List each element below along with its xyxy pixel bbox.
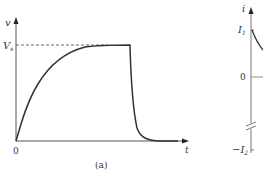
a-y-axis-arrow-icon [14,17,19,24]
a-y-axis-label: v [5,17,11,28]
figure-a: v Vs 0 t (a) [3,17,189,170]
b-i2-label: −I2 [232,144,248,156]
a-voltage-curve [16,45,178,141]
b-y-axis-arrow-icon [249,7,254,14]
a-level-label: Vs [3,40,13,52]
a-caption: (a) [95,160,107,170]
b-axis-break-icon [246,122,256,130]
b-i1-label: I1 [237,24,246,36]
figure-b: i I1 0 −I2 [232,3,263,156]
b-y-axis-label: i [242,3,245,14]
a-x-axis-arrow-icon [182,139,189,144]
b-current-curve [252,30,263,50]
a-origin-label: 0 [13,146,19,156]
figure-canvas: v Vs 0 t (a) i I1 0 −I2 [0,0,263,175]
b-zero-label: 0 [240,72,246,82]
a-x-axis-label: t [185,145,189,155]
